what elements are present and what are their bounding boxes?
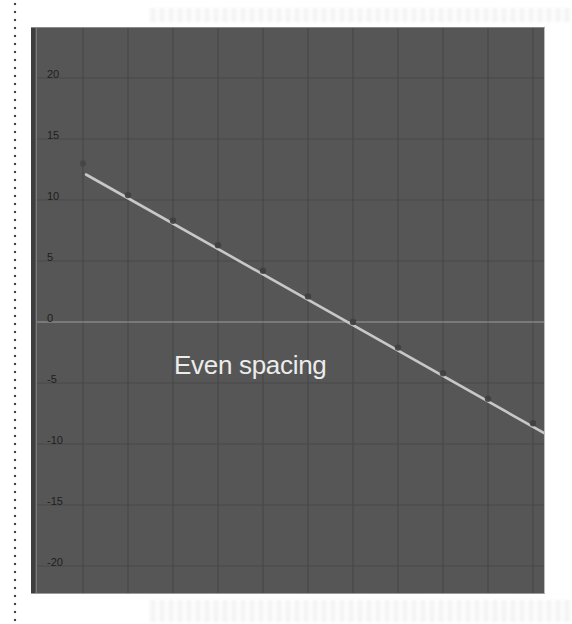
data-point (530, 420, 536, 426)
chart-annotation: Even spacing (174, 350, 327, 381)
data-point (260, 268, 266, 274)
y-tick-label: 20 (47, 68, 59, 80)
y-tick-label: 0 (47, 312, 53, 324)
bleed-through-text-top (150, 8, 570, 22)
plot-svg (31, 28, 545, 594)
data-point (125, 192, 131, 198)
y-tick-label: -10 (47, 434, 63, 446)
data-point (305, 293, 311, 299)
series-line (86, 175, 545, 435)
dotted-margin-rule (13, 0, 17, 624)
y-tick-label: -5 (47, 373, 57, 385)
data-point (80, 160, 86, 166)
y-tick-label: 5 (47, 251, 53, 263)
data-point (440, 370, 446, 376)
data-point (485, 396, 491, 402)
data-point (215, 242, 221, 248)
y-tick-label: -15 (47, 495, 63, 507)
data-point (170, 218, 176, 224)
bleed-through-text-bottom (150, 600, 570, 622)
data-point (350, 319, 356, 325)
y-tick-label: 15 (47, 129, 59, 141)
data-point (395, 344, 401, 350)
y-tick-label: -20 (47, 556, 63, 568)
chart-area: 20151050-5-10-15-20 Even spacing (31, 27, 545, 594)
y-tick-label: 10 (47, 190, 59, 202)
